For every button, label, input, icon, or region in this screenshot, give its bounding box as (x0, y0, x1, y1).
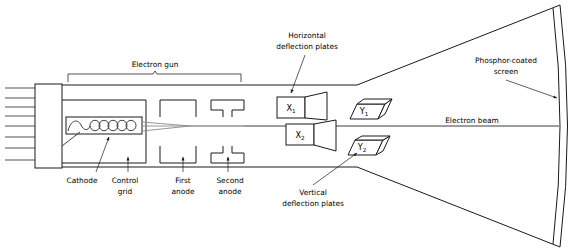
label-second-anode-line2: anode (219, 187, 242, 196)
phosphor-screen-outer (560, 5, 568, 247)
label-control-grid-line1: Control (112, 176, 139, 185)
label-horizontal-plates-line1: Horizontal (288, 31, 326, 40)
label-control-grid-line2: grid (118, 187, 133, 196)
label-electron-gun: Electron gun (132, 60, 179, 69)
label-horizontal-plates-line2: deflection plates (276, 42, 338, 51)
label-vertical-plates-line1: Vertical (299, 188, 327, 197)
control-grid-shell (62, 100, 146, 163)
vertical-deflection-plates: Y1 Y2 (348, 99, 392, 155)
text-labels: Electron gun Horizontal deflection plate… (66, 31, 537, 208)
label-first-anode-line1: First (175, 176, 191, 185)
cathode-assembly (62, 117, 142, 146)
heater-coil (68, 120, 136, 131)
crt-diagram: X1 X2 Y1 Y2 (0, 0, 575, 252)
plate-x1-side (305, 92, 327, 120)
plate-y2-top (355, 136, 390, 140)
label-vertical-plates-line2: deflection plates (282, 199, 344, 208)
horizontal-deflection-plates: X1 X2 (277, 92, 336, 151)
base-pins (5, 88, 35, 160)
plate-y1-top (357, 99, 392, 104)
plate-x2-side (314, 120, 336, 151)
electron-gun-bracket (68, 71, 241, 82)
label-cathode: Cathode (66, 176, 97, 185)
leader-vertical-plates (313, 153, 357, 185)
first-anode (160, 100, 196, 163)
leader-horizontal-plates (291, 55, 305, 93)
label-electron-beam: Electron beam (445, 116, 499, 125)
cathode-box (66, 117, 142, 134)
crt-diagram-canvas: X1 X2 Y1 Y2 (0, 0, 575, 252)
tube-base (35, 84, 62, 168)
label-second-anode-line1: Second (216, 176, 244, 185)
label-first-anode-line2: anode (172, 187, 195, 196)
label-phosphor-screen-line2: screen (494, 67, 519, 76)
label-phosphor-screen-line1: Phosphor-coated (475, 56, 537, 65)
second-anode (211, 100, 244, 163)
leader-phosphor-screen (506, 80, 557, 98)
